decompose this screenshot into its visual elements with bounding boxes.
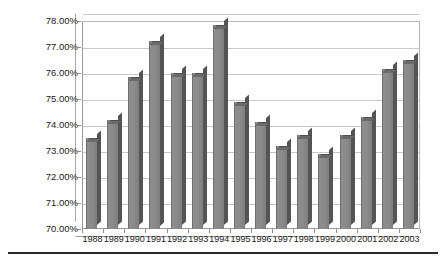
x-axis-tick-mark xyxy=(399,229,400,233)
bar-side-3d xyxy=(287,138,291,225)
x-axis-tick-label: 2003 xyxy=(396,233,422,245)
x-axis-tick-mark xyxy=(103,229,104,233)
bar-1993 xyxy=(192,73,203,229)
bar-face xyxy=(86,138,97,229)
bar-2003 xyxy=(403,60,414,229)
bar-face xyxy=(297,135,308,229)
x-axis-tick-mark xyxy=(420,229,421,233)
x-axis-tick-mark xyxy=(124,229,125,233)
x-axis-tick-mark xyxy=(314,229,315,233)
bar-1994 xyxy=(213,25,224,229)
bar-1989 xyxy=(107,120,118,229)
bar-side-3d xyxy=(308,128,312,225)
bar-side-3d xyxy=(160,33,164,225)
bar-face xyxy=(192,73,203,229)
bar-1995 xyxy=(234,102,245,229)
bar-1991 xyxy=(149,41,160,230)
bar-face xyxy=(234,102,245,229)
x-axis-tick-mark xyxy=(167,229,168,233)
bar-face xyxy=(213,25,224,229)
bar-side-3d xyxy=(266,115,270,225)
bar-1999 xyxy=(318,154,329,229)
x-axis-tick-mark xyxy=(82,229,83,233)
bar-face xyxy=(361,117,372,229)
x-axis-tick-mark xyxy=(145,229,146,233)
bar-side-3d xyxy=(224,17,228,225)
bar-face xyxy=(171,73,182,229)
x-axis-tick-mark xyxy=(209,229,210,233)
bar-side-3d xyxy=(203,66,207,225)
bar-face xyxy=(276,146,287,229)
bar-face xyxy=(340,135,351,229)
bar-side-3d xyxy=(372,110,376,225)
bar-side-3d xyxy=(351,128,355,225)
bar-face xyxy=(403,60,414,229)
bar-2002 xyxy=(382,69,393,229)
bar-1992 xyxy=(171,73,182,229)
bar-1998 xyxy=(297,135,308,229)
bar-2000 xyxy=(340,135,351,229)
x-axis-tick-mark xyxy=(336,229,337,233)
x-axis-tick-mark xyxy=(230,229,231,233)
x-axis-tick-mark xyxy=(251,229,252,233)
bar-side-3d xyxy=(118,112,122,225)
bar-side-3d xyxy=(393,62,397,225)
bar-side-3d xyxy=(139,69,143,225)
bar-side-3d xyxy=(182,66,186,225)
x-axis-tick-mark xyxy=(188,229,189,233)
bar-face xyxy=(382,69,393,229)
x-axis-tick-mark xyxy=(293,229,294,233)
bar-side-3d xyxy=(245,94,249,225)
x-axis: 1988198919901991199219931994199519961997… xyxy=(0,233,446,249)
bar-1997 xyxy=(276,146,287,229)
bar-face xyxy=(318,154,329,229)
x-axis-tick-mark xyxy=(378,229,379,233)
bottom-divider-rule xyxy=(8,252,438,254)
bar-1990 xyxy=(128,77,139,229)
bar-face xyxy=(149,41,160,230)
bar-face xyxy=(128,77,139,229)
bar-chart: 70.00%71.00%72.00%73.00%74.00%75.00%76.0… xyxy=(0,0,446,260)
bar-side-3d xyxy=(97,131,101,225)
bar-face xyxy=(255,122,266,229)
bar-side-3d xyxy=(329,146,333,225)
bar-series xyxy=(0,0,446,260)
bar-face xyxy=(107,120,118,229)
bar-1988 xyxy=(86,138,97,229)
x-axis-tick-mark xyxy=(272,229,273,233)
bar-1996 xyxy=(255,122,266,229)
x-axis-tick-mark xyxy=(357,229,358,233)
bar-2001 xyxy=(361,117,372,229)
bar-side-3d xyxy=(414,53,418,225)
